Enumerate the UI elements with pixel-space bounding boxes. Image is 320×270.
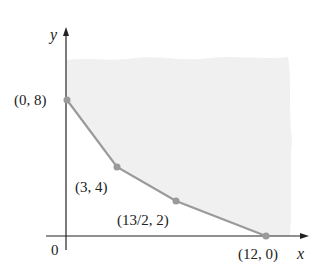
x-axis-arrow-icon: [300, 233, 309, 239]
vertex-point-3-4: [114, 164, 121, 171]
vertex-label-13-2-2: (13/2, 2): [117, 212, 169, 229]
vertex-point-0-8: [64, 97, 71, 104]
y-axis-label: y: [48, 26, 58, 44]
feasible-region-diagram: y x 0 (0, 8) (3, 4) (13/2, 2) (12, 0): [0, 0, 320, 270]
x-axis-label: x: [296, 245, 304, 262]
vertex-label-0-8: (0, 8): [14, 92, 47, 109]
vertex-point-12-0: [263, 233, 270, 240]
vertex-label-3-4: (3, 4): [75, 179, 108, 196]
y-axis-arrow-icon: [63, 27, 69, 36]
vertex-label-12-0: (12, 0): [238, 246, 278, 263]
origin-label: 0: [51, 242, 59, 258]
vertex-point-13-2-2: [173, 198, 180, 205]
